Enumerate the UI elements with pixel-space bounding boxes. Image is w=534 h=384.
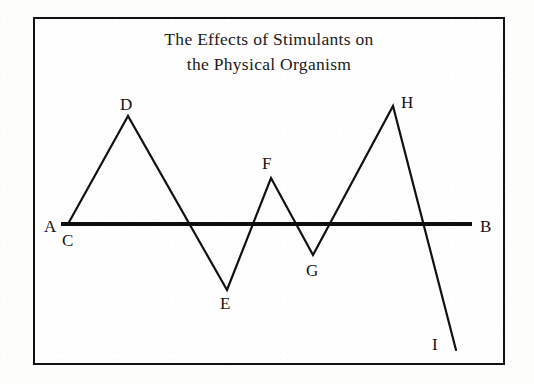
point-label-f: F — [262, 155, 271, 172]
figure-container: The Effects of Stimulants on the Physica… — [0, 0, 534, 384]
point-label-e: E — [220, 295, 230, 312]
stimulant-effect-line — [68, 106, 456, 350]
point-label-g: G — [306, 262, 318, 279]
point-label-h: H — [401, 94, 413, 111]
point-label-d: D — [120, 96, 132, 113]
point-label-c: C — [62, 232, 73, 249]
point-label-a: A — [44, 218, 56, 235]
point-label-b: B — [480, 218, 491, 235]
chart-plot — [0, 0, 534, 384]
zigzag-curve — [68, 106, 456, 350]
point-label-i: I — [432, 336, 438, 353]
